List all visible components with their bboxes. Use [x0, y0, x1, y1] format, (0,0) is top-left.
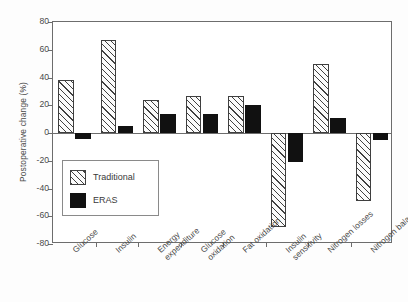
- bar: [75, 133, 91, 139]
- bar: [101, 40, 117, 133]
- legend-label-eras: ERAS: [93, 195, 118, 205]
- x-axis-label: Energyexpenditure: [156, 248, 169, 262]
- bar: [160, 114, 176, 133]
- y-tick-label: 80: [23, 16, 49, 26]
- x-axis-label-line: expenditure: [163, 255, 169, 262]
- y-tick-label: 40: [23, 72, 49, 82]
- bar: [58, 80, 74, 133]
- legend-item-eras: ERAS: [70, 192, 118, 208]
- bar: [143, 100, 159, 133]
- bar: [228, 96, 244, 133]
- legend-swatch-eras: [70, 193, 86, 208]
- legend-item-traditional: Traditional: [70, 169, 135, 185]
- x-axis-label: Glucoseoxidation: [199, 248, 212, 262]
- y-tick-label: -80: [23, 238, 49, 248]
- bar: [373, 133, 389, 140]
- legend-label-traditional: Traditional: [93, 172, 135, 182]
- x-axis-label: Nitrogen losses: [326, 248, 332, 255]
- bar: [271, 133, 287, 227]
- bar: [203, 114, 219, 133]
- chart-figure: Postoperative change (%) 806040200-20-40…: [0, 0, 408, 302]
- x-tick-mark: [96, 242, 97, 247]
- zero-baseline: [53, 133, 391, 134]
- y-tick-label: -20: [23, 155, 49, 165]
- x-axis-label: Insulinsensitivity: [284, 248, 297, 262]
- x-axis-label-line: oxidation: [205, 255, 211, 262]
- chart-legend: Traditional ERAS: [62, 160, 159, 216]
- x-axis-label: Nitrogen balance: [369, 248, 375, 255]
- x-axis-label-line: Nitrogen losses: [326, 248, 332, 255]
- bar: [356, 133, 372, 201]
- bar: [118, 126, 134, 133]
- y-tick-label: -40: [23, 183, 49, 193]
- legend-swatch-traditional: [70, 170, 86, 185]
- bar: [313, 64, 329, 133]
- y-tick-label: 0: [23, 127, 49, 137]
- x-axis-label: Fat oxidation: [241, 248, 247, 255]
- y-tick-label: -60: [23, 210, 49, 220]
- y-tick-label: 20: [23, 99, 49, 109]
- x-axis-label-line: Nitrogen balance: [369, 248, 375, 255]
- x-tick-mark: [138, 242, 139, 247]
- bar: [330, 118, 346, 133]
- bar: [245, 105, 261, 133]
- y-tick-label: 60: [23, 44, 49, 54]
- x-axis-label-line: Glucose: [71, 248, 77, 255]
- x-axis-label: Insulin: [114, 248, 120, 255]
- x-tick-mark: [351, 242, 352, 247]
- x-axis-label: Glucose: [71, 248, 77, 255]
- bar: [288, 133, 304, 162]
- x-axis-label-line: sensitivity: [290, 255, 296, 262]
- x-axis-label-line: Insulin: [114, 248, 120, 255]
- x-axis-label-line: Fat oxidation: [241, 248, 247, 255]
- bar: [186, 96, 202, 133]
- x-tick-mark: [266, 242, 267, 247]
